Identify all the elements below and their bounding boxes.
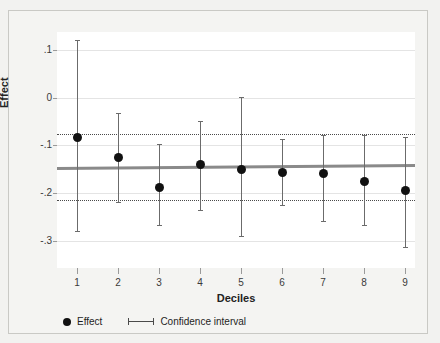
y-axis-title: Effect — [0, 77, 10, 108]
x-tick-label-8: 8 — [352, 277, 376, 288]
y-tick-label--0.1: -.1 — [6, 140, 52, 150]
x-tickmark-5 — [241, 268, 242, 274]
x-tick-label-2: 2 — [106, 277, 130, 288]
x-tickmark-8 — [364, 268, 365, 274]
errorbar-cap-top-8 — [362, 135, 367, 136]
pooled-effect-line — [57, 164, 415, 170]
x-tickmark-6 — [282, 268, 283, 274]
errorbar-cap-bottom-8 — [362, 225, 367, 226]
legend-label-confidence-interval: Confidence interval — [160, 316, 246, 327]
x-tick-label-1: 1 — [65, 277, 89, 288]
x-tickmark-3 — [159, 268, 160, 274]
x-tick-label-9: 9 — [393, 277, 417, 288]
gridline-0.1 — [57, 50, 415, 51]
errorbar-cap-top-3 — [157, 144, 162, 145]
data-point-5 — [237, 165, 246, 174]
errorbar-cap-bottom-5 — [239, 236, 244, 237]
errorbar-cap-bottom-9 — [403, 247, 408, 248]
errorbar-cap-bottom-4 — [198, 210, 203, 211]
errorbar-cap-bottom-6 — [280, 205, 285, 206]
errorbar-cap-top-4 — [198, 121, 203, 122]
x-axis-title: Deciles — [57, 292, 415, 304]
cap-right — [153, 318, 154, 325]
data-point-4 — [196, 160, 205, 169]
y-tickmark-0.1 — [53, 50, 57, 51]
errorbar-cap-bottom-3 — [157, 225, 162, 226]
x-tick-label-5: 5 — [229, 277, 253, 288]
x-tickmark-4 — [200, 268, 201, 274]
y-tick-label--0.2: -.2 — [6, 188, 52, 198]
data-point-9 — [401, 186, 410, 195]
errorbar-cap-bottom-7 — [321, 221, 326, 222]
y-tickmark-0 — [53, 98, 57, 99]
errorbar-cap-bottom-1 — [75, 231, 80, 232]
data-point-7 — [319, 169, 328, 178]
x-tick-label-6: 6 — [270, 277, 294, 288]
gridline--0.2 — [57, 193, 415, 194]
errorbar-cap-top-6 — [280, 139, 285, 140]
errorbar-cap-top-7 — [321, 135, 326, 136]
x-tickmark-1 — [77, 268, 78, 274]
errorbar-cap-top-9 — [403, 137, 408, 138]
data-point-2 — [114, 153, 123, 162]
legend-entry-confidence-interval: Confidence interval — [128, 316, 246, 327]
errorbar-cap-bottom-2 — [116, 202, 121, 203]
legend-label-effect: Effect — [77, 316, 102, 327]
errorbar-cap-top-5 — [239, 97, 244, 98]
chart-figure: .1 0 -.1 -.2 -.3 Effect 1 2 3 4 5 6 7 8 … — [0, 0, 440, 343]
filled-circle-icon — [63, 318, 71, 326]
cap-bar — [128, 321, 154, 322]
y-tick-label--0.3: -.3 — [6, 236, 52, 246]
errorbar-cap-top-1 — [75, 40, 80, 41]
gridline--0.1 — [57, 145, 415, 146]
gridline--0.3 — [57, 241, 415, 242]
confidence-band-lower — [57, 200, 415, 201]
data-point-3 — [155, 183, 164, 192]
chart-legend: Effect Confidence interval — [63, 316, 246, 327]
x-tickmark-2 — [118, 268, 119, 274]
y-tickmark--0.2 — [53, 193, 57, 194]
x-tickmark-7 — [323, 268, 324, 274]
x-tick-label-4: 4 — [188, 277, 212, 288]
y-tick-label-0.1: .1 — [6, 45, 52, 55]
data-point-6 — [278, 168, 287, 177]
data-point-1 — [73, 133, 82, 142]
x-tickmark-9 — [405, 268, 406, 274]
data-point-8 — [360, 177, 369, 186]
plot-area — [57, 32, 415, 268]
legend-entry-effect: Effect — [63, 316, 102, 327]
y-tickmark--0.1 — [53, 145, 57, 146]
capped-line-icon — [128, 318, 154, 326]
gridline-0 — [57, 98, 415, 99]
y-tickmark--0.3 — [53, 241, 57, 242]
y-tick-label-0: 0 — [6, 93, 52, 103]
errorbar-7 — [323, 135, 324, 221]
x-tick-label-3: 3 — [147, 277, 171, 288]
errorbar-cap-top-2 — [116, 113, 121, 114]
x-tick-label-7: 7 — [311, 277, 335, 288]
